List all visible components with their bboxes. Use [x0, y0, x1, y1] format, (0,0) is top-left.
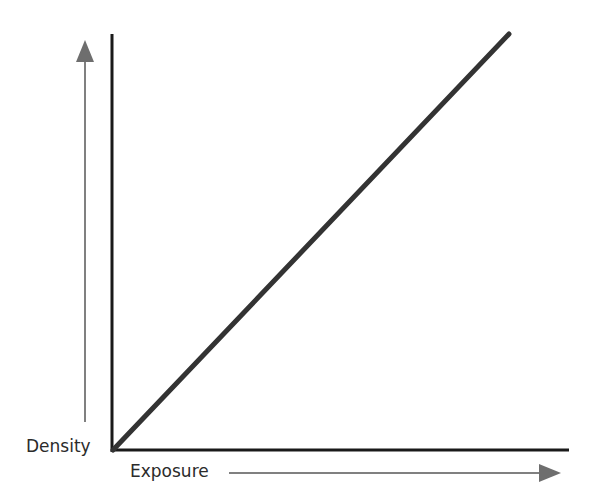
exposure-arrow-head-icon [539, 464, 561, 482]
diagram: Density Exposure [0, 0, 596, 504]
series-line [113, 34, 509, 450]
plot-area [0, 0, 596, 504]
density-arrow-head-icon [76, 40, 94, 62]
y-axis-label: Density [26, 436, 91, 456]
x-axis-label: Exposure [130, 461, 209, 481]
